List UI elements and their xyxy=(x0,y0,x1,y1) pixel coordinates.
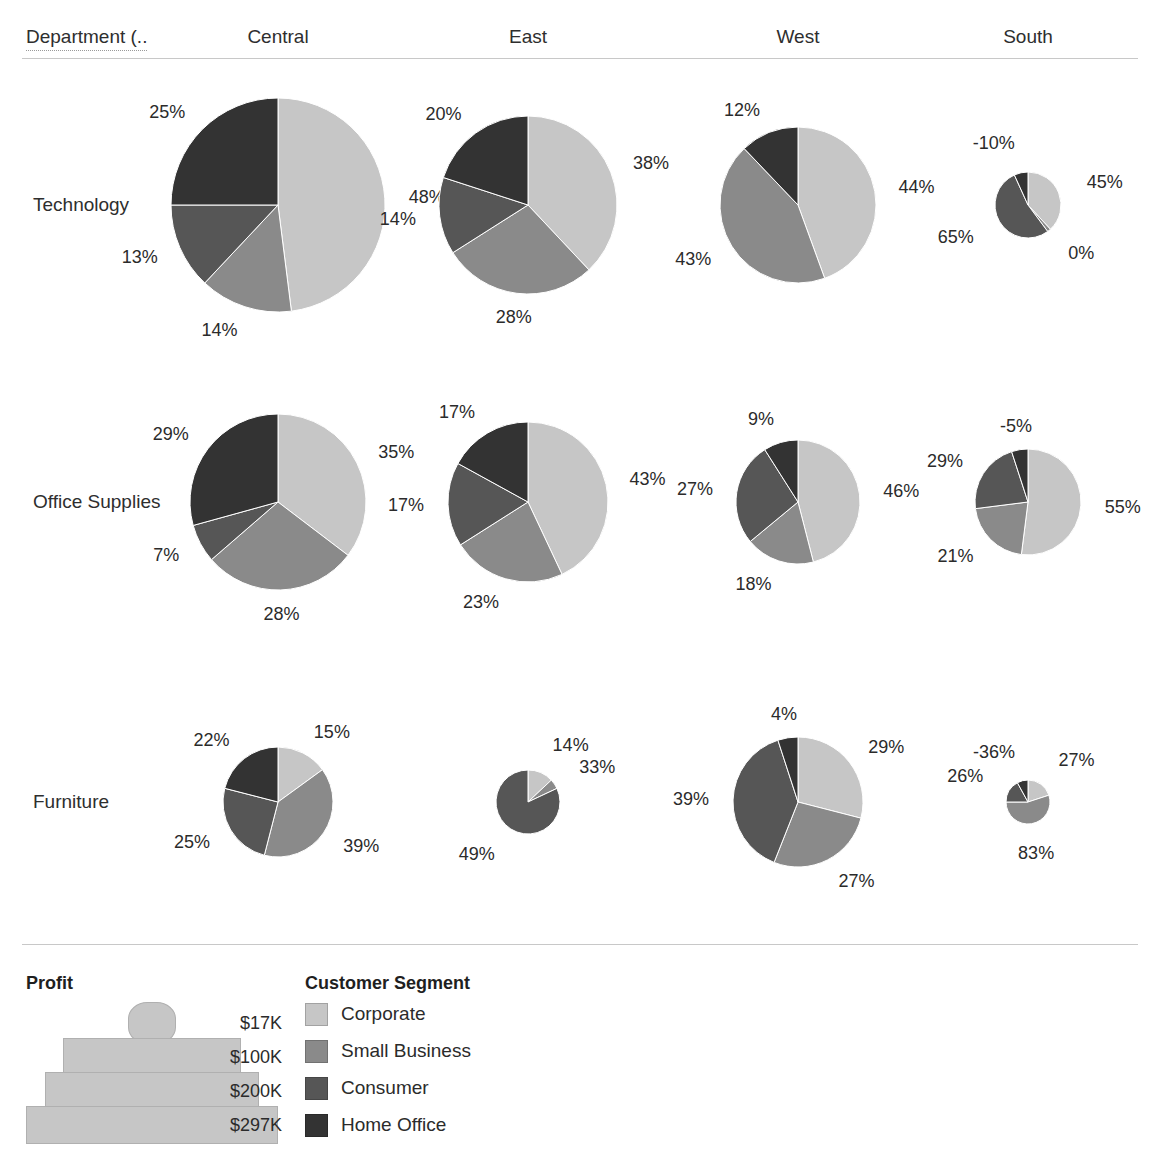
pie-slice-home-office[interactable] xyxy=(171,98,278,205)
pie-slice-label: 39% xyxy=(673,789,709,809)
segment-legend-item-home-office[interactable]: Home Office xyxy=(305,1108,471,1142)
pie-slice-label: 55% xyxy=(1105,497,1141,517)
segment-legend-items: CorporateSmall BusinessConsumerHome Offi… xyxy=(305,997,471,1142)
pie-chart-furniture-south[interactable]: 27%83%26%-36% xyxy=(928,702,1128,902)
segment-legend-item-small-business[interactable]: Small Business xyxy=(305,1034,471,1068)
pie-slice-label: 45% xyxy=(1087,172,1123,192)
column-header-south[interactable]: South xyxy=(1003,26,1053,48)
pie-slice-label: 83% xyxy=(1018,843,1054,863)
pie-slice-label: 15% xyxy=(314,722,350,742)
segment-color-swatch xyxy=(305,1114,328,1137)
segment-color-swatch xyxy=(305,1040,328,1063)
pie-slice-label: 28% xyxy=(264,604,300,624)
pie-chart-office-supplies-east[interactable]: 43%23%17%17% xyxy=(370,344,686,660)
pie-slice-label: 14% xyxy=(553,735,589,755)
profit-legend-row: $100K xyxy=(26,1040,286,1074)
profit-size-value: $297K xyxy=(230,1115,282,1136)
pie-slice-label: 43% xyxy=(675,249,711,269)
pie-slice-label: 22% xyxy=(194,730,230,750)
pie-slice-small-business[interactable] xyxy=(975,502,1028,555)
profit-size-marker xyxy=(45,1072,259,1110)
pie-slice-label: 13% xyxy=(122,247,158,267)
pie-slice-label: 18% xyxy=(735,574,771,594)
pie-chart-technology-west[interactable]: 44%43%12% xyxy=(642,49,954,361)
pie-slice-corporate[interactable] xyxy=(1021,449,1081,555)
pie-slice-label: 9% xyxy=(748,409,774,429)
pie-slice-label: -36% xyxy=(973,742,1015,762)
pie-slice-label: -5% xyxy=(1000,416,1032,436)
pie-chart-furniture-west[interactable]: 29%27%39%4% xyxy=(655,659,941,945)
pie-slice-label: 29% xyxy=(868,737,904,757)
pie-slice-label: 27% xyxy=(1059,750,1095,770)
pie-slice-label: 65% xyxy=(938,227,974,247)
row-header-furniture[interactable]: Furniture xyxy=(33,791,109,813)
pie-slice-label: 49% xyxy=(459,844,495,864)
segment-color-swatch xyxy=(305,1003,328,1026)
pie-slice-label: 28% xyxy=(496,307,532,327)
profit-legend-row: $200K xyxy=(26,1074,286,1108)
pie-slice-label: 21% xyxy=(938,546,974,566)
profit-size-legend: Profit $17K$100K$200K$297K xyxy=(26,973,286,1146)
pie-slice-label: 29% xyxy=(153,424,189,444)
pie-slice-label: 12% xyxy=(724,100,760,120)
profit-legend-rows: $17K$100K$200K$297K xyxy=(26,1006,286,1146)
segment-legend-label: Small Business xyxy=(341,1040,471,1062)
segment-legend-label: Consumer xyxy=(341,1077,429,1099)
column-header-west[interactable]: West xyxy=(777,26,820,48)
segment-legend-label: Home Office xyxy=(341,1114,446,1136)
pie-slice-label: 20% xyxy=(426,104,462,124)
pie-slice-label: 4% xyxy=(771,704,797,724)
profit-legend-row: $17K xyxy=(26,1006,286,1040)
profit-size-value: $200K xyxy=(230,1081,282,1102)
profit-legend-row: $297K xyxy=(26,1108,286,1142)
pie-slice-label: 23% xyxy=(463,592,499,612)
segment-legend-item-corporate[interactable]: Corporate xyxy=(305,997,471,1031)
pie-slice-label: 27% xyxy=(677,479,713,499)
profit-legend-title: Profit xyxy=(26,973,286,994)
pie-chart-furniture-east[interactable]: 14%33%49% xyxy=(418,692,638,912)
pie-slice-label: -10% xyxy=(973,133,1015,153)
profit-size-value: $17K xyxy=(240,1013,282,1034)
profit-size-value: $100K xyxy=(230,1047,282,1068)
pie-chart-office-supplies-west[interactable]: 46%18%27%9% xyxy=(658,362,938,642)
segment-legend-title: Customer Segment xyxy=(305,973,471,994)
pie-chart-technology-south[interactable]: 45%0%65%-10% xyxy=(917,94,1139,316)
pie-slice-label: 26% xyxy=(947,766,983,786)
pie-slice-label: 33% xyxy=(579,757,615,777)
segment-legend-label: Corporate xyxy=(341,1003,426,1025)
segment-legend-item-consumer[interactable]: Consumer xyxy=(305,1071,471,1105)
pie-slice-label: 39% xyxy=(343,836,379,856)
pie-slice-label: 7% xyxy=(153,545,179,565)
pie-slice-label: 29% xyxy=(927,451,963,471)
pie-chart-furniture-central[interactable]: 15%39%25%22% xyxy=(145,669,411,935)
segment-color-swatch xyxy=(305,1077,328,1100)
pie-slice-label: 25% xyxy=(174,832,210,852)
pie-slice-label: 25% xyxy=(149,102,185,122)
pie-slice-label: 0% xyxy=(1068,243,1094,263)
pie-slice-label: 17% xyxy=(388,495,424,515)
pie-chart-office-supplies-south[interactable]: 55%21%29%-5% xyxy=(897,371,1159,633)
pie-slice-label: 17% xyxy=(439,402,475,422)
customer-segment-legend: Customer Segment CorporateSmall Business… xyxy=(305,973,471,1142)
profit-size-marker xyxy=(63,1038,241,1076)
pie-matrix-visualization: Department (.. CentralEastWestSouth Prof… xyxy=(0,0,1164,1170)
pie-slice-label: 27% xyxy=(838,871,874,891)
legend-divider xyxy=(22,944,1138,945)
pie-slice-label: 14% xyxy=(380,209,416,229)
